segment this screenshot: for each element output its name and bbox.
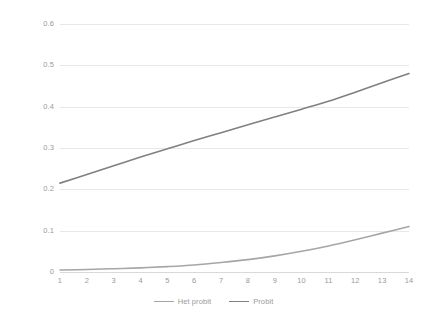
series-line-probit bbox=[60, 74, 409, 184]
gridline-0 bbox=[60, 272, 409, 273]
legend-label-probit: Probit bbox=[253, 297, 273, 306]
x-tick-label: 13 bbox=[372, 276, 392, 286]
y-tick-label: 0.4 bbox=[8, 103, 54, 111]
y-tick-label: 0.6 bbox=[8, 20, 54, 28]
series-line-het-probit bbox=[60, 227, 409, 270]
legend-swatch-probit bbox=[229, 301, 249, 303]
x-tick-label: 1 bbox=[50, 276, 70, 286]
y-tick-label: 0.3 bbox=[8, 144, 54, 152]
y-axis: 00.10.20.30.40.50.6 bbox=[0, 24, 54, 272]
legend-swatch-het-probit bbox=[154, 301, 174, 303]
y-tick-label: 0.5 bbox=[8, 61, 54, 69]
x-axis: 1234567891011121314 bbox=[60, 276, 409, 288]
x-tick-label: 2 bbox=[77, 276, 97, 286]
legend-label-het-probit: Het probit bbox=[178, 297, 212, 306]
legend-item-probit[interactable]: Probit bbox=[229, 297, 273, 306]
chart-legend: Het probitProbit bbox=[0, 297, 427, 306]
y-tick-label: 0.1 bbox=[8, 227, 54, 235]
plot-area bbox=[60, 24, 409, 272]
y-tick-label: 0.2 bbox=[8, 185, 54, 193]
x-tick-label: 14 bbox=[399, 276, 419, 286]
series-layer bbox=[60, 24, 409, 272]
x-tick-label: 4 bbox=[131, 276, 151, 286]
x-tick-label: 5 bbox=[157, 276, 177, 286]
legend-item-het-probit[interactable]: Het probit bbox=[154, 297, 212, 306]
x-tick-label: 8 bbox=[238, 276, 258, 286]
line-chart: 00.10.20.30.40.50.6 1234567891011121314 … bbox=[0, 0, 427, 324]
x-tick-label: 7 bbox=[211, 276, 231, 286]
x-tick-label: 3 bbox=[104, 276, 124, 286]
x-tick-label: 6 bbox=[184, 276, 204, 286]
x-tick-label: 10 bbox=[292, 276, 312, 286]
y-tick-label: 0 bbox=[8, 268, 54, 276]
x-tick-label: 11 bbox=[318, 276, 338, 286]
x-tick-label: 9 bbox=[265, 276, 285, 286]
x-tick-label: 12 bbox=[345, 276, 365, 286]
